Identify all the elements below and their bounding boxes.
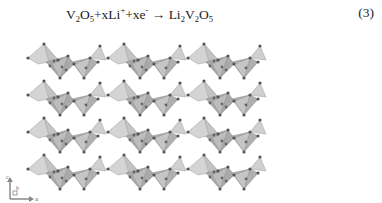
eq-arrow: → [148,7,168,22]
axis-b-label: b [16,185,19,191]
structure-layer-3 [26,116,266,153]
structure-layer-1 [26,42,266,79]
eq-v: V [66,7,76,22]
crystal-axes-indicator: c b a [4,173,44,203]
eq-v: V [185,7,195,22]
eq-o: O [199,7,209,22]
axis-c-label: c [6,174,9,180]
axis-a-label: a [35,195,39,203]
eq-xe: +xe [125,7,145,22]
structure-layer-4 [26,153,266,190]
crystal-structure-figure [0,30,382,203]
structure-layer-2 [26,79,266,116]
equation-number: (3) [358,5,374,21]
eq-li: Li [169,7,181,22]
eq-xli: +xLi [94,7,120,22]
eq-o: O [80,7,90,22]
eq-sub: 5 [209,14,213,24]
chemical-equation: V2O5+xLi++xe- → Li2V2O5 [66,5,213,24]
